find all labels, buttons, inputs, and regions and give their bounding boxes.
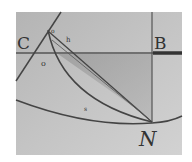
label-o-left: o bbox=[41, 59, 46, 68]
geometry-figure: C B N o h o s bbox=[0, 0, 192, 162]
label-n: N bbox=[138, 127, 158, 151]
label-o-small: o bbox=[51, 27, 55, 34]
label-c: C bbox=[17, 33, 30, 53]
label-b: B bbox=[154, 33, 167, 53]
label-h: h bbox=[66, 36, 71, 44]
label-s: s bbox=[84, 105, 87, 112]
figure-canvas: C B N o h o s bbox=[0, 0, 192, 162]
